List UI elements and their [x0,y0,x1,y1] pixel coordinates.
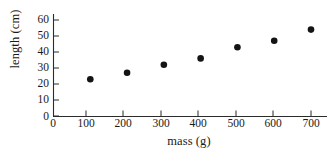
y-axis: 0 10 20 30 40 50 60 [38,13,60,122]
y-tick-group [54,20,60,116]
y-tick-label: 60 [38,13,50,25]
y-tick-label: 20 [38,77,50,89]
x-tick-label: 400 [189,117,207,129]
y-tick-label: 30 [38,61,50,73]
x-tick-label: 0 [50,117,56,129]
x-tick-label: 700 [302,117,320,129]
x-tick-label: 500 [227,117,245,129]
x-tick-label: 600 [264,117,282,129]
data-point [271,38,278,45]
data-point [234,44,241,51]
scatter-chart-figure: length (cm) 0 10 20 30 [0,0,336,157]
x-tick-label: 200 [114,117,132,129]
data-point [161,62,168,69]
x-axis-label: mass (g) [53,134,325,149]
y-tick-label: 50 [38,29,50,41]
data-point [124,70,131,77]
x-tick-label: 100 [77,117,95,129]
data-point-series [87,26,314,82]
data-point [87,76,94,83]
y-tick-label: 10 [38,93,50,105]
x-tick-group [54,111,312,117]
data-point [197,55,204,62]
x-axis: 0 100 200 300 400 500 600 700 [50,111,327,130]
y-tick-labels: 0 10 20 30 40 50 60 [38,13,50,122]
x-tick-label: 300 [152,117,170,129]
y-tick-label: 0 [43,110,49,122]
data-point [308,26,315,33]
x-tick-labels: 0 100 200 300 400 500 600 700 [50,117,320,129]
y-tick-label: 40 [38,45,50,57]
